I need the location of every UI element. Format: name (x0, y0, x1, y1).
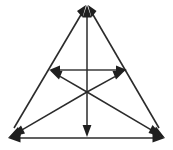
figure-root (0, 0, 173, 150)
vector-diagram (0, 0, 173, 150)
